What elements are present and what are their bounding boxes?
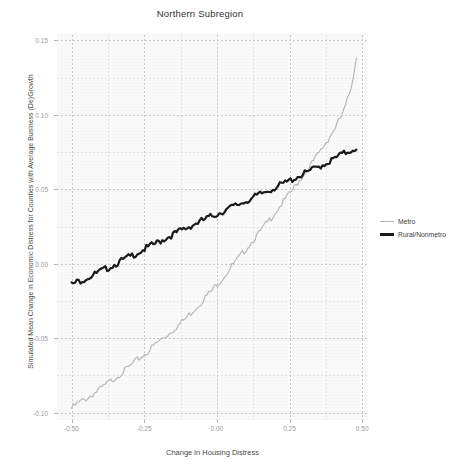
x-tick-label: 0.00 [211, 425, 224, 432]
legend-item-metro[interactable]: Metro [380, 218, 446, 225]
x-tick-mark [217, 420, 218, 423]
x-tick-label: -0.50 [64, 425, 79, 432]
y-tick-label: -0.05 [0, 335, 48, 342]
x-tick-label: 0.50 [356, 425, 369, 432]
x-tick-mark [362, 420, 363, 423]
y-tick-label: 0.10 [0, 111, 48, 118]
y-tick-mark [54, 338, 57, 339]
y-tick-label: 0.05 [0, 186, 48, 193]
legend-swatch-rural-icon [380, 233, 394, 236]
x-tick-mark [144, 420, 145, 423]
chart-figure: Northern Subregion 0.150.100.050.00-0.05… [0, 0, 460, 475]
x-tick-mark [290, 420, 291, 423]
y-tick-mark [54, 40, 57, 41]
series-line-rural-nonmetro [72, 150, 357, 284]
y-tick-mark [54, 264, 57, 265]
page-title: Northern Subregion [0, 8, 400, 19]
series-layer [57, 33, 368, 420]
x-axis-title: Change in Housing Distress [57, 448, 368, 457]
x-tick-label: 0.25 [283, 425, 296, 432]
y-tick-mark [54, 413, 57, 414]
legend-swatch-metro-icon [380, 221, 394, 222]
legend-item-rural[interactable]: Rural/Nonmetro [380, 231, 446, 238]
x-tick-label: -0.25 [137, 425, 152, 432]
y-tick-label: -0.10 [0, 409, 48, 416]
series-line-metro [72, 58, 357, 408]
legend-label-metro: Metro [398, 218, 415, 225]
y-tick-label: 0.15 [0, 37, 48, 44]
legend-label-rural: Rural/Nonmetro [398, 231, 446, 238]
y-tick-mark [54, 189, 57, 190]
legend: Metro Rural/Nonmetro [380, 218, 446, 244]
y-axis-title: Simulated Mean Change in Economic Distre… [27, 22, 34, 422]
x-tick-mark [72, 420, 73, 423]
plot-panel [57, 33, 368, 420]
y-tick-mark [54, 115, 57, 116]
y-tick-label: 0.00 [0, 260, 48, 267]
